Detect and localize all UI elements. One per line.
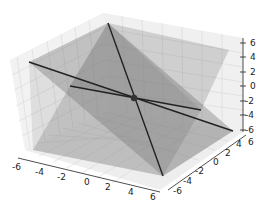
z-tick-label: 6 bbox=[250, 38, 256, 48]
z-tick-label: -6 bbox=[245, 125, 254, 135]
z-tick-label: -4 bbox=[245, 110, 254, 120]
x-tick-label: -2 bbox=[57, 172, 66, 182]
x-tick-label: -6 bbox=[12, 162, 21, 172]
y-tick-label: 2 bbox=[225, 148, 231, 158]
y-tick-label: 0 bbox=[213, 157, 219, 167]
z-tick-label: -2 bbox=[245, 96, 254, 106]
x-tick-label: 4 bbox=[128, 187, 134, 197]
x-tick-label: -4 bbox=[35, 167, 44, 177]
y-tick-label: -4 bbox=[183, 176, 192, 186]
z-tick-label: 2 bbox=[250, 67, 256, 77]
intersection-point bbox=[131, 95, 137, 101]
z-tick-label: 0 bbox=[250, 81, 256, 91]
y-tick-label: 6 bbox=[248, 137, 254, 147]
3d-plot: 6 4 2 0 -2 -4 -6 -6 -4 -2 0 2 4 6 -6 -4 … bbox=[0, 0, 278, 210]
x-tick-label: 6 bbox=[150, 192, 156, 202]
z-tick-label: 4 bbox=[250, 52, 256, 62]
y-tick-label: -6 bbox=[173, 186, 182, 196]
x-tick-label: 0 bbox=[84, 177, 90, 187]
y-tick-label: 4 bbox=[236, 139, 242, 149]
x-tick-label: 2 bbox=[105, 182, 111, 192]
y-tick-label: -2 bbox=[195, 166, 204, 176]
